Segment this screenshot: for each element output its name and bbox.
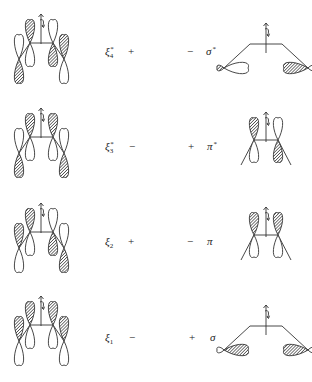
inner-left-orbital-upper-lobe [25,301,34,325]
left-p-orbital-upper-lobe [249,117,258,140]
inner-right-orbital-lower-lobe [48,43,57,67]
label-subscript: 3 [110,147,114,155]
left-p-orbital-lower-lobe [249,235,258,258]
outer-right-orbital-lower-lobe [59,341,68,366]
xi-3-star-label: ξ3* [105,141,114,155]
inner-right-orbital-upper-lobe [48,113,57,137]
outer-right-orbital-lower-lobe [59,59,68,84]
right-orbital-3 [241,207,291,260]
label-subscript: 2 [110,242,114,250]
inner-right-orbital-lower-lobe [48,325,57,349]
label-superscript: * [110,45,114,53]
right-sign: + [188,141,194,152]
label-superscript: * [110,140,114,148]
right-sign: − [187,236,193,247]
pi-star-label: π* [207,141,217,152]
label-base: σ [206,45,211,57]
outer-left-orbital-upper-lobe [14,34,23,59]
left-sign: − [129,141,135,152]
left-orbital-set-1 [14,14,68,84]
left-orbital-set-2 [14,108,68,178]
right-p-orbital-lower-lobe [273,140,282,163]
outer-left-orbital-lower-lobe [14,59,23,84]
outer-right-orbital-upper-lobe [59,316,68,341]
inner-left-orbital-lower-lobe [25,43,34,67]
label-base: π [207,235,213,247]
inner-left-orbital-upper-lobe [25,113,34,137]
right-sign: + [189,332,195,343]
right-hybrid-outer-lobe [308,65,312,71]
label-superscript: * [212,45,216,53]
sigma-label: σ [210,332,215,343]
right-p-orbital-upper-lobe [273,117,282,140]
right-hybrid-outer-lobe [308,347,312,353]
left-hybrid-outer-lobe [217,65,224,71]
left-orbital-set-3 [14,203,68,273]
inner-right-orbital-upper-lobe [48,301,57,325]
outer-right-orbital-lower-lobe [59,248,68,273]
inner-right-orbital-upper-lobe [48,19,57,43]
right-orbital-2 [241,112,291,165]
inner-left-orbital-lower-lobe [25,137,34,161]
inner-left-orbital-lower-lobe [25,325,34,349]
left-hybrid-outer-lobe [217,347,224,353]
left-p-orbital-lower-lobe [249,140,258,163]
left-sign: + [128,236,134,247]
inner-left-orbital-lower-lobe [25,232,34,256]
outer-left-orbital-upper-lobe [14,223,23,248]
outer-left-orbital-upper-lobe [14,316,23,341]
label-subscript: 1 [110,338,114,346]
inner-left-orbital-upper-lobe [25,208,34,232]
left-p-orbital-upper-lobe [249,212,258,235]
xi-2-label: ξ2 [105,236,113,250]
inner-left-orbital-upper-lobe [25,19,34,43]
xi-1-label: ξ1 [105,332,113,346]
sigma-star-label: σ* [206,46,216,57]
right-p-orbital-lower-lobe [273,235,282,258]
outer-left-orbital-lower-lobe [14,153,23,178]
xi-4-star-label: ξ4* [105,46,114,60]
outer-right-orbital-upper-lobe [59,128,68,153]
pi-label: π [207,236,213,247]
label-superscript: * [214,140,218,148]
left-sign: − [129,332,135,343]
outer-left-orbital-lower-lobe [14,248,23,273]
label-base: π [207,140,213,152]
right-orbital-4 [217,305,312,356]
outer-right-orbital-upper-lobe [59,223,68,248]
inner-right-orbital-lower-lobe [48,137,57,161]
right-orbital-1 [217,23,312,74]
inner-right-orbital-lower-lobe [48,232,57,256]
outer-right-orbital-upper-lobe [59,34,68,59]
outer-right-orbital-lower-lobe [59,153,68,178]
right-sign: − [187,46,193,57]
left-sign: + [128,46,134,57]
right-p-orbital-upper-lobe [273,212,282,235]
label-subscript: 4 [110,52,114,60]
left-orbital-set-4 [14,296,68,366]
label-base: σ [210,331,215,343]
outer-left-orbital-upper-lobe [14,128,23,153]
inner-right-orbital-upper-lobe [48,208,57,232]
orbital-diagram [0,0,312,382]
outer-left-orbital-lower-lobe [14,341,23,366]
